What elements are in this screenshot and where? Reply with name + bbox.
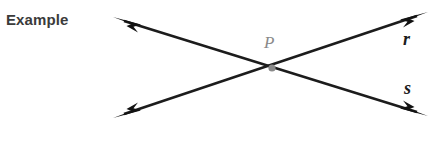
line-s-label: s [404,78,411,99]
point-p-marker [268,64,275,71]
point-p-label: P [264,33,274,53]
arrowhead-bottom-left-icon [113,103,141,119]
page-title: Example [6,11,68,28]
line-r-label: r [403,29,410,50]
arrowhead-bottom-right-icon [400,101,428,117]
arrowhead-top-left-icon [113,17,141,33]
arrowhead-top-right-icon [400,12,428,28]
